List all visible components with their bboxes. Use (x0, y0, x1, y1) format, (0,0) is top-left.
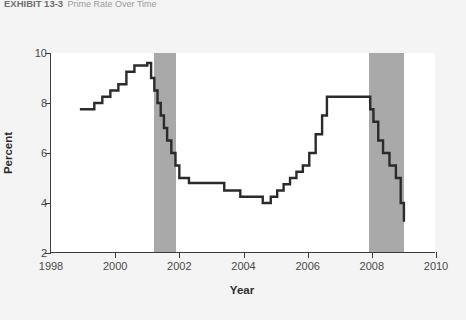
prime-rate-polyline (80, 63, 404, 222)
x-tick-mark-2000 (115, 252, 116, 258)
x-tick-mark-2010 (436, 252, 437, 258)
x-axis-title: Year (230, 284, 254, 296)
series-line-prime-rate (51, 53, 435, 252)
plot-area: 246810 1998200020022004200620082010 (50, 53, 435, 253)
y-tick-label-10: 10 (35, 47, 47, 59)
x-tick-mark-2008 (372, 252, 373, 258)
figure-caption: EXHIBIT 13-3 Prime Rate Over Time (4, 0, 157, 7)
y-tick-label-2: 2 (41, 247, 47, 259)
plot-clip (51, 53, 435, 252)
x-tick-label-2000: 2000 (103, 260, 127, 272)
figure-caption-text: Prime Rate Over Time (68, 0, 157, 7)
y-tick-label-6: 6 (41, 147, 47, 159)
x-tick-mark-2006 (308, 252, 309, 258)
x-tick-label-2008: 2008 (360, 260, 384, 272)
y-tick-label-4: 4 (41, 197, 47, 209)
y-axis-title: Percent (2, 132, 14, 174)
figure-caption-number: EXHIBIT 13-3 (4, 0, 63, 7)
x-tick-label-2004: 2004 (231, 260, 255, 272)
x-tick-mark-2004 (244, 252, 245, 258)
chart-figure: Percent Year 246810 19982000200220042006… (0, 7, 466, 320)
x-tick-label-2006: 2006 (295, 260, 319, 272)
x-tick-label-1998: 1998 (39, 260, 63, 272)
x-tick-mark-2002 (179, 252, 180, 258)
figure-caption-strip: EXHIBIT 13-3 Prime Rate Over Time (0, 0, 466, 7)
x-tick-label-2010: 2010 (424, 260, 448, 272)
y-tick-label-8: 8 (41, 97, 47, 109)
x-tick-label-2002: 2002 (167, 260, 191, 272)
